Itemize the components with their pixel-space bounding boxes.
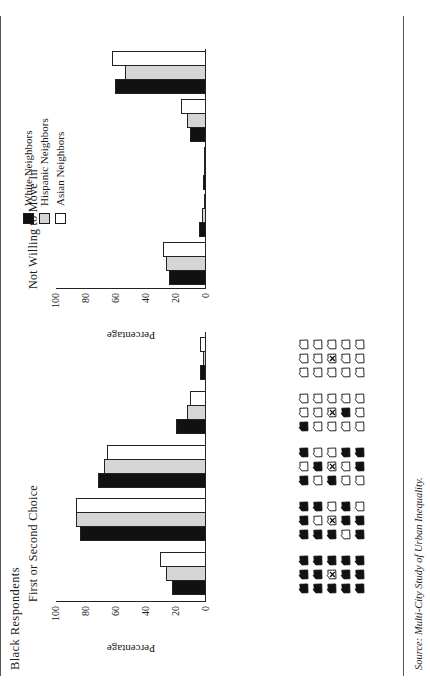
respondent-house-icon	[326, 408, 337, 419]
bar[interactable]	[203, 351, 206, 366]
empty-house-icon	[354, 368, 365, 379]
filled-house-icon	[340, 408, 351, 419]
bar-group	[56, 386, 206, 440]
axis-tick-label: 60	[111, 606, 121, 616]
filled-house-icon	[298, 516, 309, 527]
bar[interactable]	[166, 566, 207, 581]
neighborhood-card-half-and-half	[298, 440, 365, 494]
house-grid	[298, 502, 365, 541]
empty-house-icon	[298, 394, 309, 405]
filled-house-icon	[312, 556, 323, 567]
plot-area	[56, 332, 206, 602]
bar[interactable]	[125, 65, 206, 80]
empty-house-icon	[340, 530, 351, 541]
filled-house-icon	[354, 570, 365, 581]
respondent-house-icon	[326, 516, 337, 527]
bar[interactable]	[190, 127, 207, 142]
empty-house-icon	[312, 408, 323, 419]
bar[interactable]	[160, 552, 207, 567]
bar[interactable]	[80, 526, 206, 541]
bar-groups	[56, 49, 206, 288]
filled-house-icon	[312, 530, 323, 541]
empty-house-icon	[312, 394, 323, 405]
filled-house-icon	[312, 462, 323, 473]
axis-title: Percentage	[56, 640, 206, 658]
bar[interactable]	[181, 99, 207, 114]
neighborhood-card-mostly-other-race	[298, 386, 365, 440]
bar[interactable]	[107, 445, 206, 460]
empty-house-icon	[340, 394, 351, 405]
house-grid	[298, 340, 365, 379]
empty-house-icon	[354, 394, 365, 405]
bar[interactable]	[187, 113, 207, 128]
neighborhood-composition-strip	[228, 332, 428, 602]
bar[interactable]	[98, 473, 206, 488]
respondent-house-icon	[326, 354, 337, 365]
axis-tick-label: 0	[201, 606, 211, 611]
bar[interactable]	[204, 147, 206, 162]
figure-root: Black Respondents White Neighbors Hispan…	[0, 0, 430, 694]
house-grid	[298, 394, 365, 433]
bar[interactable]	[187, 405, 207, 420]
bar-group	[56, 145, 206, 193]
filled-house-icon	[312, 502, 323, 513]
empty-house-icon	[354, 476, 365, 487]
bar-groups	[56, 332, 206, 601]
bar[interactable]	[112, 51, 207, 66]
filled-house-icon	[340, 516, 351, 527]
filled-house-icon	[354, 516, 365, 527]
filled-house-icon	[354, 530, 365, 541]
bar[interactable]	[199, 222, 207, 237]
bar[interactable]	[163, 242, 207, 257]
filled-house-icon	[340, 556, 351, 567]
filled-house-icon	[298, 556, 309, 567]
bar[interactable]	[172, 580, 207, 595]
top-rule	[0, 16, 1, 676]
value-axis: 020406080100	[56, 291, 206, 319]
bar[interactable]	[202, 208, 207, 223]
bar-group	[56, 493, 206, 547]
axis-tick-label: 20	[171, 293, 181, 303]
bar[interactable]	[200, 365, 206, 380]
empty-house-icon	[298, 368, 309, 379]
bar[interactable]	[166, 256, 207, 271]
bar[interactable]	[204, 161, 206, 176]
neighborhood-card-mostly-same-race	[298, 494, 365, 548]
filled-house-icon	[312, 570, 323, 581]
bar-group	[56, 192, 206, 240]
figure-title: Black Respondents	[8, 567, 23, 670]
empty-house-icon	[326, 394, 337, 405]
bar[interactable]	[76, 498, 207, 513]
bar[interactable]	[190, 391, 207, 406]
empty-house-icon	[354, 408, 365, 419]
house-grid	[298, 448, 365, 487]
bar[interactable]	[203, 175, 206, 190]
filled-house-icon	[298, 502, 309, 513]
filled-house-icon	[298, 530, 309, 541]
filled-house-icon	[354, 556, 365, 567]
empty-house-icon	[298, 408, 309, 419]
empty-house-icon	[340, 476, 351, 487]
filled-house-icon	[326, 476, 337, 487]
empty-house-icon	[312, 516, 323, 527]
axis-title-text: Percentage	[107, 330, 155, 342]
bar[interactable]	[169, 270, 207, 285]
bar[interactable]	[104, 459, 206, 474]
empty-house-icon	[298, 462, 309, 473]
bar[interactable]	[204, 194, 206, 209]
empty-house-icon	[312, 354, 323, 365]
house-grid	[298, 556, 365, 595]
bar-group	[56, 49, 206, 97]
bar[interactable]	[115, 79, 207, 94]
filled-house-icon	[298, 448, 309, 459]
empty-house-icon	[298, 340, 309, 351]
empty-house-icon	[312, 368, 323, 379]
empty-house-icon	[312, 448, 323, 459]
empty-house-icon	[354, 422, 365, 433]
filled-house-icon	[298, 422, 309, 433]
bar[interactable]	[176, 419, 206, 434]
empty-house-icon	[340, 462, 351, 473]
empty-house-icon	[312, 340, 323, 351]
panel-first-or-second-choice: First or Second Choice Percentage 020406…	[28, 332, 228, 602]
bar[interactable]	[76, 512, 207, 527]
